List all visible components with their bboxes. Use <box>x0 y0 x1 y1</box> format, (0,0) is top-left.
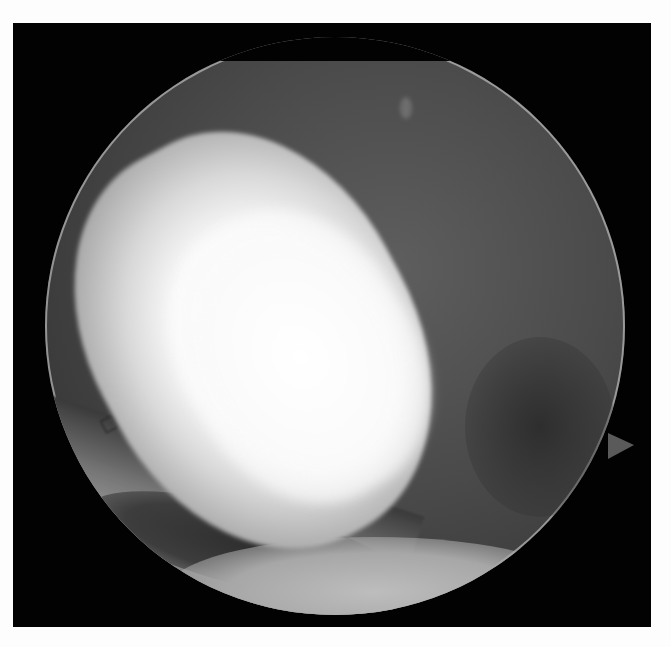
scope-notch-marker <box>608 433 634 459</box>
endoscopic-field: ◇ C C <box>45 37 625 615</box>
image-frame: ◇ C C <box>13 23 651 627</box>
scope-flat-top-edge <box>45 37 625 61</box>
dark-background-tissue <box>465 337 615 517</box>
tissue-speck <box>400 97 412 119</box>
